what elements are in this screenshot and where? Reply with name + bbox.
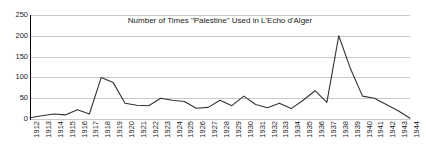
x-tick-label: 1944 (413, 121, 421, 138)
x-tick-label: 1934 (294, 121, 302, 138)
x-tick-label: 1940 (366, 121, 374, 138)
y-tick-label: 0 (2, 115, 28, 123)
x-tick-label: 1913 (45, 121, 53, 138)
x-tick-label: 1941 (377, 121, 385, 138)
x-tick-label: 1922 (152, 121, 160, 138)
x-tick-label: 1921 (140, 121, 148, 138)
gridline (30, 57, 410, 58)
gridline (30, 36, 410, 37)
x-tick-label: 1932 (271, 121, 279, 138)
x-tick-label: 1918 (104, 121, 112, 138)
x-axis-tick-labels: 1912191319141915191619171918191919201921… (30, 121, 410, 159)
x-tick-label: 1936 (318, 121, 326, 138)
x-tick-label: 1923 (164, 121, 172, 138)
x-tick-label: 1933 (282, 121, 290, 138)
x-tick-label: 1914 (57, 121, 65, 138)
x-tick-label: 1929 (235, 121, 243, 138)
x-tick-label: 1935 (306, 121, 314, 138)
y-tick-label: 200 (2, 32, 28, 40)
x-tick-label: 1920 (128, 121, 136, 138)
gridline (30, 119, 410, 120)
x-tick-label: 1928 (223, 121, 231, 138)
x-tick-label: 1912 (33, 121, 41, 138)
x-tick-label: 1938 (342, 121, 350, 138)
x-tick-label: 1919 (116, 121, 124, 138)
y-axis-line (30, 15, 31, 120)
y-tick-label: 50 (2, 94, 28, 102)
x-tick-label: 1943 (401, 121, 409, 138)
x-tick-label: 1925 (187, 121, 195, 138)
x-tick-label: 1930 (247, 121, 255, 138)
x-tick-label: 1931 (259, 121, 267, 138)
y-tick-label: 100 (2, 73, 28, 81)
x-tick-label: 1927 (211, 121, 219, 138)
x-tick-label: 1917 (92, 121, 100, 138)
y-axis-tick-labels: 250200150100500 (0, 0, 28, 159)
x-tick-label: 1937 (330, 121, 338, 138)
plot-area (30, 15, 410, 119)
chart-title: Number of Times "Palestine" Used in L'Ec… (60, 17, 380, 25)
x-tick-label: 1939 (354, 121, 362, 138)
x-tick-label: 1926 (199, 121, 207, 138)
x-tick-label: 1916 (81, 121, 89, 138)
y-tick-label: 250 (2, 11, 28, 19)
x-tick-label: 1924 (176, 121, 184, 138)
x-tick-label: 1915 (69, 121, 77, 138)
chart-container: 250200150100500 Number of Times "Palesti… (0, 0, 426, 159)
gridline (30, 98, 410, 99)
x-tick-label: 1942 (389, 121, 397, 138)
y-tick-label: 150 (2, 53, 28, 61)
gridline (30, 77, 410, 78)
